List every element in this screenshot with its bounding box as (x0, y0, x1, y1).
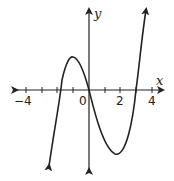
tick-label-0: 0 (79, 94, 87, 108)
cubic-function-graph: −4 0 2 4 x y (0, 0, 174, 181)
tick-label-4: 4 (148, 94, 156, 108)
tick-label-2: 2 (116, 94, 124, 108)
x-axis-label: x (156, 73, 164, 88)
tick-label-neg4: −4 (14, 94, 32, 108)
cubic-curve (49, 10, 146, 166)
y-axis-label: y (93, 6, 102, 21)
